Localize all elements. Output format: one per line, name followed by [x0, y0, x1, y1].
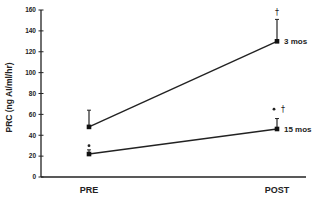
- axes: 020406080100120140160: [25, 6, 306, 180]
- data-marker: [87, 125, 92, 130]
- data-marker: [275, 127, 280, 132]
- series-line: [89, 129, 277, 154]
- y-axis-label: PRC (ng AI/ml/hr): [4, 62, 14, 132]
- significance-dot: [273, 108, 276, 111]
- x-category-label: PRE: [80, 185, 99, 195]
- dagger-annotation: †: [281, 105, 285, 114]
- y-tick-label: 120: [25, 48, 36, 55]
- series-label: 3 mos: [284, 37, 308, 46]
- y-tick-label: 160: [25, 6, 36, 13]
- y-tick-label: 60: [29, 111, 37, 118]
- y-tick-label: 80: [29, 90, 37, 97]
- series-label: 15 mos: [284, 125, 312, 134]
- dagger-annotation: †: [275, 8, 279, 17]
- labels-group: PRC (ng AI/ml/hr)PREPOST3 mos15 mos††: [4, 8, 312, 195]
- series-line: [89, 41, 277, 127]
- y-tick-label: 140: [25, 27, 36, 34]
- y-tick-label: 100: [25, 69, 36, 76]
- series-15-mos: [87, 119, 280, 157]
- series-3-mos: [87, 19, 280, 129]
- y-tick-label: 20: [29, 152, 37, 159]
- x-category-label: POST: [265, 185, 290, 195]
- data-marker: [87, 152, 92, 157]
- y-tick-label: 40: [29, 132, 37, 139]
- line-chart: 020406080100120140160 PRC (ng AI/ml/hr)P…: [0, 0, 314, 199]
- series-group: [87, 19, 280, 156]
- significance-dot: [88, 144, 91, 147]
- y-tick-label: 0: [32, 173, 36, 180]
- data-marker: [275, 39, 280, 44]
